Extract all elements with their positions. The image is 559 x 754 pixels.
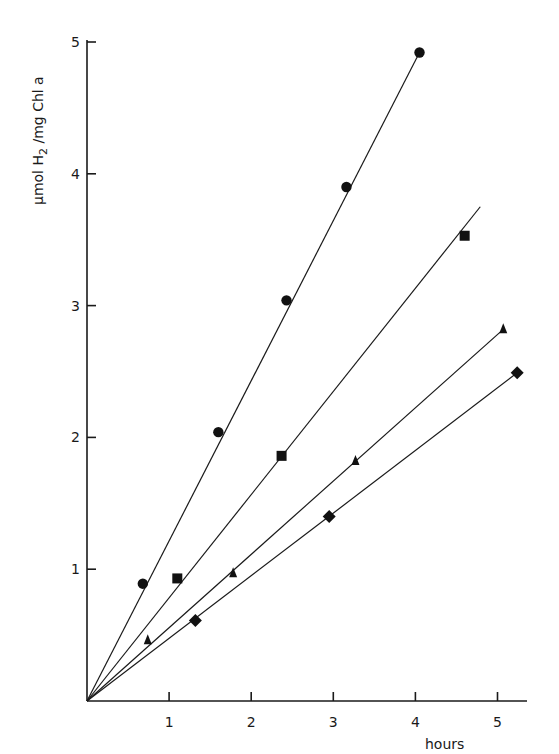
x-tick-label: 1 (165, 714, 174, 730)
x-tick-label: 4 (411, 714, 420, 730)
data-markers (138, 47, 524, 644)
circle-marker (138, 578, 148, 588)
circle-marker (281, 295, 291, 305)
y-tick-label: 3 (71, 298, 80, 314)
line-chart: 1234512345 hours µmol H2 /mg Chl a (0, 0, 559, 754)
y-tick-label: 4 (71, 166, 80, 182)
square-marker (277, 451, 287, 461)
x-tick-label: 2 (247, 714, 256, 730)
y-axis-label: µmol H2 /mg Chl a (30, 76, 50, 205)
circle-marker (414, 47, 424, 57)
triangle-marker (351, 455, 359, 465)
diamond-marker (189, 614, 202, 627)
y-tick-label: 5 (71, 34, 80, 50)
x-axis-label: hours (425, 736, 464, 752)
diamond-marker (323, 510, 336, 523)
fit-lines (87, 53, 517, 701)
circle-marker (341, 182, 351, 192)
square-marker (460, 231, 470, 241)
fit-line-triangles (87, 329, 503, 701)
axes (87, 40, 527, 701)
axis-ticks: 1234512345 (71, 34, 502, 730)
x-tick-label: 5 (493, 714, 502, 730)
triangle-marker (144, 634, 152, 644)
y-axis-label-post: /mg Chl a (30, 76, 46, 148)
fit-line-diamonds (87, 373, 517, 701)
triangle-marker (499, 323, 507, 333)
square-marker (172, 573, 182, 583)
y-tick-label: 2 (71, 429, 80, 445)
fit-line-circles (87, 53, 420, 701)
circle-marker (213, 427, 223, 437)
y-axis-label-pre: µmol H (30, 155, 46, 205)
x-tick-label: 3 (329, 714, 338, 730)
y-axis-label-subscript: 2 (37, 148, 50, 155)
diamond-marker (511, 366, 524, 379)
y-tick-label: 1 (71, 561, 80, 577)
